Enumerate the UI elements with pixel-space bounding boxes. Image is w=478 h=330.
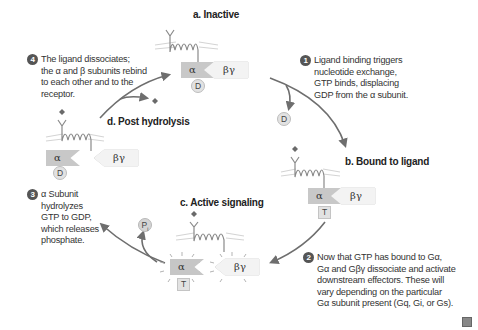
gtp-nucleotide: T bbox=[318, 206, 331, 219]
step-2-text: 2Now that GTP has bound to Gα, Gα and Gβ… bbox=[303, 252, 456, 310]
stage-a-title: a. Inactive bbox=[193, 9, 239, 20]
receptor-active bbox=[176, 211, 244, 252]
receptor-bound bbox=[281, 146, 340, 188]
phosphate-icon: Pi bbox=[138, 218, 152, 232]
ligand-icon bbox=[59, 109, 65, 115]
stage-c-title: c. Active signaling bbox=[180, 197, 264, 208]
stage-d-title: d. Post hydrolysis bbox=[107, 116, 190, 127]
gtp-nucleotide: T bbox=[177, 278, 190, 291]
receptor-post-hydrolysis bbox=[46, 109, 104, 151]
step-1-text: 1Ligand binding triggers nucleotide exch… bbox=[300, 55, 408, 101]
ligand-icon bbox=[191, 211, 197, 217]
ligand-icon bbox=[292, 146, 298, 152]
released-gdp: D bbox=[277, 112, 291, 126]
gdp-nucleotide: D bbox=[53, 166, 67, 180]
step-4-text: 4The ligand dissociates; the α and β sub… bbox=[27, 54, 147, 100]
gdp-nucleotide: D bbox=[191, 79, 205, 93]
receptor-inactive bbox=[155, 30, 218, 62]
released-ligand-icon bbox=[152, 98, 158, 104]
watermark-icon bbox=[462, 317, 472, 327]
stage-b-title: b. Bound to ligand bbox=[345, 156, 429, 167]
step-3-text: 3α Subunit hydrolyzes GTP to GDP, which … bbox=[27, 189, 99, 247]
